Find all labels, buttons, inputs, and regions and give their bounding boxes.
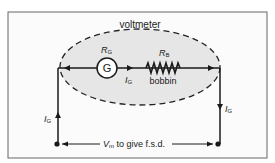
terminal-left — [54, 141, 59, 146]
voltmeter-label: voltmeter — [119, 19, 161, 30]
voltmeter-boundary — [60, 29, 220, 105]
circuit-diagram: voltmeter G RG IG RB bobbin IG IG Vm to … — [0, 0, 275, 163]
terminal-right — [215, 141, 220, 146]
galvanometer-symbol: G — [103, 62, 112, 74]
bobbin-label: bobbin — [149, 76, 176, 86]
